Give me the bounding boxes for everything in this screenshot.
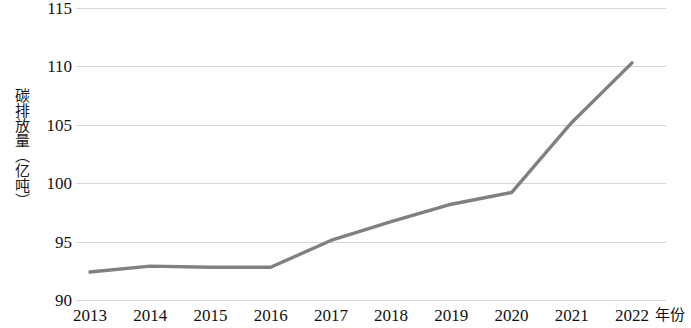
- gridline-90: [76, 300, 666, 301]
- x-tick-label-2020: 2020: [495, 306, 529, 325]
- x-tick-label-2017: 2017: [314, 306, 348, 325]
- x-tick-label-2021: 2021: [555, 306, 589, 325]
- x-tick-label-2018: 2018: [374, 306, 408, 325]
- x-tick-label-2013: 2013: [73, 306, 107, 325]
- x-tick-label-2016: 2016: [254, 306, 288, 325]
- x-tick-label-2019: 2019: [434, 306, 468, 325]
- carbon-emissions-line-chart: 碳排放量（亿吨） 9095100105110115 20132014201520…: [0, 0, 691, 328]
- x-tick-label-2014: 2014: [133, 306, 167, 325]
- series-line-carbon-emissions: [76, 8, 666, 300]
- y-axis-tick-labels: 9095100105110115: [26, 0, 72, 328]
- y-tick-label-105: 105: [28, 116, 72, 133]
- y-tick-label-95: 95: [28, 233, 72, 250]
- y-tick-label-110: 110: [28, 58, 72, 75]
- series-polyline: [90, 63, 632, 272]
- x-tick-label-2015: 2015: [193, 306, 227, 325]
- y-axis-title: 碳排放量（亿吨）: [2, 88, 28, 208]
- x-tick-label-2022: 2022: [615, 306, 649, 325]
- x-axis-title: 年份: [655, 306, 685, 325]
- y-tick-label-90: 90: [28, 292, 72, 309]
- y-tick-label-115: 115: [28, 0, 72, 17]
- plot-area: [76, 8, 666, 300]
- y-tick-label-100: 100: [28, 175, 72, 192]
